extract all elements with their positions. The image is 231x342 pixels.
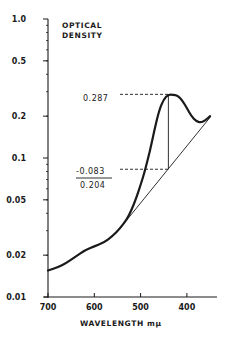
y-axis-ticks: 1.00.50.20.10.050.020.01 — [6, 15, 48, 302]
y-tick-label: 0.2 — [12, 112, 26, 121]
y-tick-label: 0.01 — [6, 293, 26, 302]
peak-value-label: 0.287 — [83, 94, 108, 103]
x-tick-label: 400 — [179, 303, 196, 312]
axes — [44, 19, 217, 298]
x-tick-label: 700 — [40, 303, 57, 312]
y-tick-label: 0.1 — [12, 154, 27, 163]
y-tick-label: 0.05 — [6, 196, 26, 205]
data-series — [48, 95, 210, 271]
x-axis-ticks: 700600500400 — [40, 293, 196, 312]
x-axis-title: WAVELENGTH mμ — [80, 319, 162, 328]
x-tick-label: 600 — [86, 303, 103, 312]
y-tick-label: 1.0 — [12, 15, 27, 24]
difference-value-label: 0.204 — [80, 181, 105, 190]
baseline-value-label: -0.083 — [76, 167, 105, 176]
baseline-line — [120, 117, 210, 228]
optical-density-chart: 1.00.50.20.10.050.020.01 700600500400 OP… — [0, 0, 231, 342]
x-tick-label: 500 — [132, 303, 149, 312]
y-tick-label: 0.5 — [12, 57, 27, 66]
y-axis-title-line1: OPTICAL — [62, 21, 102, 30]
spectrum-curve — [48, 95, 210, 271]
y-tick-label: 0.02 — [6, 251, 26, 260]
y-axis-title-line2: DENSITY — [62, 31, 103, 40]
